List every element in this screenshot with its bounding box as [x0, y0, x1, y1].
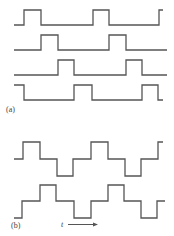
panel-a-label: (a)	[6, 105, 15, 114]
panel-b-label: (b)	[11, 221, 21, 230]
waveform-a-phase-2	[14, 35, 167, 50]
waveform-diagram: (a) (b) t	[0, 0, 174, 236]
waveform-b-bipolar-1	[14, 142, 163, 176]
waveform-a-phase-3	[14, 60, 167, 75]
waveform-b-bipolar-2	[14, 185, 165, 218]
time-arrow-icon	[68, 223, 98, 227]
time-axis-label: t	[61, 220, 64, 229]
waveform-a-phase-4	[14, 85, 163, 100]
waveform-a-phase-1	[14, 10, 163, 25]
